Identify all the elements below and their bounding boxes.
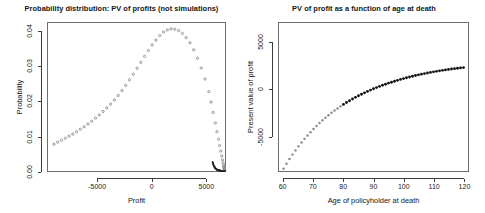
figure-canvas: Probability distribution: PV of profits …: [0, 0, 485, 213]
y-tick: [38, 31, 41, 32]
x-tick-label: 110: [429, 183, 440, 190]
data-point: [447, 68, 450, 71]
data-point: [68, 135, 70, 137]
data-point: [429, 71, 432, 74]
data-point: [83, 126, 85, 128]
y-tick: [269, 89, 272, 90]
data-point: [375, 86, 378, 89]
data-point: [438, 69, 441, 72]
data-point: [53, 143, 55, 145]
data-point: [441, 69, 444, 72]
data-point: [87, 123, 89, 125]
data-point: [420, 73, 423, 76]
data-point: [220, 150, 222, 152]
data-point: [94, 117, 96, 119]
data-point: [143, 55, 145, 57]
x-tick: [434, 179, 435, 182]
data-point: [381, 84, 384, 87]
data-point: [285, 163, 287, 165]
data-point: [291, 153, 293, 155]
data-point: [174, 28, 176, 30]
data-point: [75, 131, 77, 133]
data-point: [318, 122, 320, 124]
y-axis-line-right: [272, 42, 273, 137]
data-point: [125, 84, 127, 86]
data-point: [342, 103, 345, 106]
data-point: [336, 107, 338, 109]
data-point: [210, 101, 212, 103]
data-point: [369, 89, 372, 92]
data-point: [360, 93, 363, 96]
data-point: [177, 30, 179, 32]
data-point: [294, 149, 296, 151]
x-tick: [97, 179, 98, 182]
data-point: [64, 137, 66, 139]
data-point: [345, 101, 348, 104]
data-point: [128, 79, 130, 81]
data-point: [363, 91, 366, 94]
data-point: [309, 131, 311, 133]
data-point: [200, 67, 202, 69]
data-point: [357, 94, 360, 97]
data-point: [351, 98, 354, 101]
data-point: [306, 134, 308, 136]
y-tick-label: 5000: [257, 34, 264, 50]
data-point: [181, 32, 183, 34]
data-point: [136, 67, 138, 69]
data-point: [109, 103, 111, 105]
data-point: [435, 70, 438, 73]
x-tick: [313, 179, 314, 182]
data-point: [196, 57, 198, 59]
data-point: [417, 73, 420, 76]
data-point: [348, 99, 351, 102]
data-point: [140, 61, 142, 63]
data-point: [426, 72, 429, 75]
scatter-series-profit-distribution: [48, 23, 225, 171]
x-tick: [206, 179, 207, 182]
data-point: [170, 28, 172, 30]
data-point: [387, 82, 390, 85]
data-point: [117, 94, 119, 96]
data-point-tail: [224, 170, 226, 172]
plot-area-right: [278, 22, 469, 172]
x-tick-label: 5000: [199, 183, 215, 190]
x-tick-label: -5000: [88, 183, 106, 190]
data-point: [378, 85, 381, 88]
x-tick-label: 80: [339, 183, 347, 190]
data-point: [456, 67, 459, 70]
x-tick: [343, 179, 344, 182]
x-tick: [283, 179, 284, 182]
x-tick: [404, 179, 405, 182]
y-tick: [38, 137, 41, 138]
x-axis-label-left: Profit: [128, 196, 145, 205]
data-point: [113, 99, 115, 101]
data-point: [453, 67, 456, 70]
y-axis-label-right: Present value of profit: [246, 61, 255, 133]
data-point: [324, 116, 326, 118]
data-point: [216, 131, 218, 133]
data-point: [60, 139, 62, 141]
chart-title-right: PV of profit as a function of age at dea…: [243, 4, 485, 13]
data-point: [282, 167, 284, 169]
data-point: [212, 111, 214, 113]
data-point: [72, 133, 74, 135]
x-tick-label: 0: [150, 183, 154, 190]
y-tick-label: 0.02: [26, 95, 33, 109]
chart-panel-profit-distribution: Probability distribution: PV of profits …: [0, 0, 243, 213]
data-point: [98, 114, 100, 116]
y-tick: [38, 66, 41, 67]
data-point: [432, 70, 435, 73]
data-point: [147, 49, 149, 51]
data-point: [297, 145, 299, 147]
y-tick-label: 0.04: [26, 24, 33, 38]
x-tick-label: 120: [459, 183, 471, 190]
data-point: [390, 81, 393, 84]
y-tick-label: 0.01: [26, 130, 33, 144]
data-point: [411, 75, 414, 78]
y-tick-label: 0.00: [26, 165, 33, 179]
data-point: [288, 158, 290, 160]
data-point: [155, 39, 157, 41]
y-axis-line-left: [41, 31, 42, 172]
data-point: [450, 68, 453, 71]
x-tick-label: 60: [279, 183, 287, 190]
